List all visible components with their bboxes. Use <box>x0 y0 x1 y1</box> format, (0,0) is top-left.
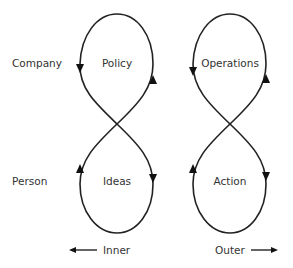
outer-top-left-arrow-down-icon <box>189 67 197 76</box>
inner-bottom-right-arrow-down-icon <box>149 174 157 183</box>
loop-label-operations: Operations <box>201 57 259 69</box>
outer-figure-eight <box>189 14 270 233</box>
inner-top-left-arrow-down-icon <box>76 64 84 73</box>
outer-bottom-right-arrow-down-icon <box>262 172 270 181</box>
inner-direction-indicator: Inner <box>69 244 131 256</box>
row-label-person: Person <box>12 175 47 187</box>
inner-top-loop <box>80 14 153 124</box>
outer-direction-indicator: Outer <box>215 244 278 256</box>
loop-label-policy: Policy <box>102 57 132 69</box>
left-arrow-icon <box>69 247 76 253</box>
outer-top-loop <box>193 14 266 124</box>
right-arrow-icon <box>271 247 278 253</box>
inner-label: Inner <box>103 244 131 256</box>
figure-eight-diagram: Company Person Policy Ideas Operations A… <box>0 0 293 268</box>
loop-label-action: Action <box>214 175 247 187</box>
loop-label-ideas: Ideas <box>103 175 131 187</box>
outer-label: Outer <box>215 244 245 256</box>
inner-figure-eight <box>76 14 157 233</box>
row-label-company: Company <box>12 57 62 69</box>
